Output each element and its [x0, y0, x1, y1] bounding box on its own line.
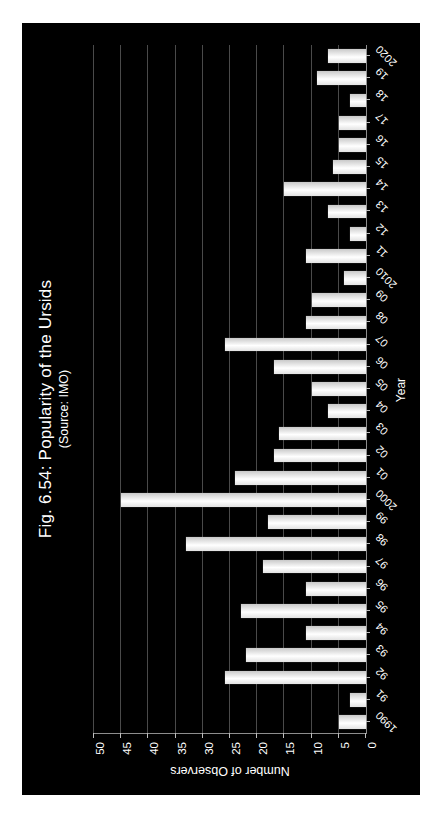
x-axis-tick — [366, 321, 370, 322]
x-axis-tick-label: 09 — [373, 288, 390, 305]
y-axis-title-label: Number of Observers — [170, 764, 289, 778]
x-axis-tick — [366, 455, 370, 456]
y-axis-tick — [202, 733, 203, 738]
x-axis-tick-label: 95 — [373, 598, 390, 615]
x-axis-tick — [366, 166, 370, 167]
x-axis-tick — [366, 521, 370, 522]
x-axis-tick-label: 92 — [373, 665, 390, 682]
chart-subtitle: (Source: IMO) — [57, 23, 72, 795]
y-axis-tick — [256, 733, 257, 738]
x-axis-tick — [366, 610, 370, 611]
x-axis-tick — [366, 499, 370, 500]
x-axis-tick-label: 99 — [373, 510, 390, 527]
y-axis-tick — [175, 733, 176, 738]
x-axis: 1990919293949596979899200001020304050607… — [94, 45, 366, 733]
y-axis-tick — [93, 733, 94, 738]
x-axis-tick-label: 93 — [373, 643, 390, 660]
x-axis-tick — [366, 410, 370, 411]
x-axis-tick — [366, 566, 370, 567]
x-axis-tick-label: 17 — [373, 110, 390, 127]
y-axis-tick — [338, 733, 339, 738]
x-axis-tick — [366, 721, 370, 722]
x-axis-tick-label: 05 — [373, 377, 390, 394]
x-axis-tick — [366, 432, 370, 433]
x-axis-tick-label: 02 — [373, 443, 390, 460]
x-axis-tick-label: 19 — [373, 66, 390, 83]
plot-area: 05101520253035404550 1990919293949596979… — [94, 45, 367, 734]
title-block: Fig. 6.54: Popularity of the Ursids (Sou… — [36, 23, 72, 795]
x-axis-tick-label: 04 — [373, 399, 390, 416]
y-axis-tick — [229, 733, 230, 738]
x-axis-tick — [366, 55, 370, 56]
x-axis-tick-label: 03 — [373, 421, 390, 438]
y-axis-tick — [365, 733, 366, 738]
x-axis-tick-label: 16 — [373, 132, 390, 149]
x-axis-tick — [366, 632, 370, 633]
x-axis-tick-label: 13 — [373, 199, 390, 216]
x-axis-tick — [366, 588, 370, 589]
x-axis-tick — [366, 366, 370, 367]
x-axis-tick — [366, 654, 370, 655]
x-axis-tick — [366, 388, 370, 389]
x-axis-tick-label: 91 — [373, 687, 390, 704]
x-axis-tick — [366, 210, 370, 211]
x-axis-tick — [366, 344, 370, 345]
x-axis-tick — [366, 122, 370, 123]
x-axis-tick-label: 01 — [373, 465, 390, 482]
x-axis-tick-label: 97 — [373, 554, 390, 571]
x-axis-tick-label: 18 — [373, 88, 390, 105]
x-axis-tick-label: 14 — [373, 177, 390, 194]
x-axis-tick-label: 15 — [373, 155, 390, 172]
y-axis-tick — [120, 733, 121, 738]
y-axis-tick — [147, 733, 148, 738]
y-axis-tick — [311, 733, 312, 738]
y-axis-title: Number of Observers — [94, 763, 366, 779]
x-axis-tick-label: 94 — [373, 621, 390, 638]
x-axis-tick — [366, 277, 370, 278]
x-axis-title: Year — [394, 46, 408, 734]
figure-panel: Fig. 6.54: Popularity of the Ursids (Sou… — [22, 23, 420, 795]
x-axis-tick-label: 06 — [373, 354, 390, 371]
x-axis-tick-label: 12 — [373, 221, 390, 238]
x-axis-tick — [366, 188, 370, 189]
x-axis-tick-label: 11 — [373, 243, 390, 260]
x-axis-tick — [366, 233, 370, 234]
chart-title: Fig. 6.54: Popularity of the Ursids — [36, 23, 56, 795]
x-axis-tick — [366, 477, 370, 478]
x-axis-tick — [366, 99, 370, 100]
x-axis-tick-label: 96 — [373, 576, 390, 593]
chart: Fig. 6.54: Popularity of the Ursids (Sou… — [22, 23, 420, 795]
x-axis-tick — [366, 299, 370, 300]
x-axis-tick — [366, 77, 370, 78]
x-axis-tick-label: 07 — [373, 332, 390, 349]
rotated-chart-wrapper: Fig. 6.54: Popularity of the Ursids (Sou… — [22, 23, 420, 795]
y-axis-tick — [283, 733, 284, 738]
x-axis-tick — [366, 677, 370, 678]
x-axis-tick — [366, 543, 370, 544]
x-axis-tick-label: 98 — [373, 532, 390, 549]
x-axis-tick — [366, 255, 370, 256]
x-axis-tick-label: 08 — [373, 310, 390, 327]
x-axis-tick — [366, 144, 370, 145]
x-axis-tick — [366, 699, 370, 700]
